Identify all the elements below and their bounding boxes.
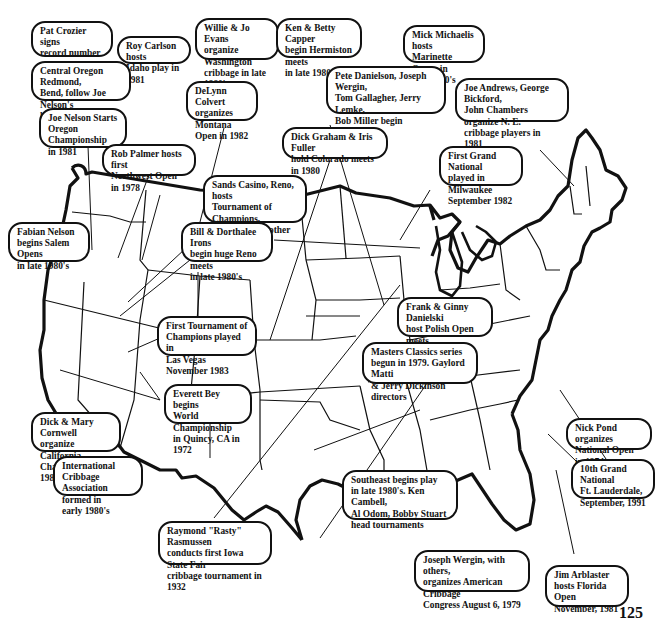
callout-delynn-colvert: DeLynn Colvert organizes Montana Open in…	[186, 81, 258, 121]
callout-ken-betty-capper: Ken & Betty Capper begin Hermiston meets…	[276, 18, 362, 58]
callout-joe-andrews: Joe Andrews, George Bickford, John Chamb…	[455, 78, 569, 122]
callout-nick-pond: Nick Pond organizes National Open in 197…	[566, 418, 652, 450]
callout-bill-dorthalee-irons: Bill & Dorthalee Irons begin huge Reno m…	[181, 222, 273, 262]
callout-roy-carlson: Roy Carlson hosts Idaho play in 1981	[117, 36, 191, 64]
callout-central-oregon: Central Oregon Redmond, Bend, follow Joe…	[31, 61, 131, 101]
callout-willie-jo-evans: Willie & Jo Evans organize Washington cr…	[195, 18, 279, 60]
callout-pete-danielson: Pete Danielson, Joseph Wergin, Tom Galla…	[326, 66, 446, 114]
callout-mick-michaelis: Mick Michaelis hosts Marinette Opens in …	[403, 25, 485, 63]
callout-dick-mary-cornwell: Dick & Mary Cornwell organize California…	[31, 412, 121, 452]
callout-rob-palmer: Rob Palmer hosts first Northwest Open in…	[102, 144, 196, 176]
callout-joseph-wergin: Joseph Wergin, with others, organizes Am…	[414, 550, 530, 592]
callout-dick-graham: Dick Graham & Iris Fuller hold Colorado …	[282, 127, 388, 159]
leader-lines	[60, 125, 612, 554]
callout-fabian-nelson: Fabian Nelson begins Salem Opens in late…	[8, 222, 90, 262]
callout-pat-crozier: Pat Crozier signs record number of Portl…	[31, 21, 113, 57]
callout-joe-nelson: Joe Nelson Starts Oregon Championship in…	[39, 108, 127, 148]
callout-frank-ginny-danielski: Frank & Ginny Danielski host Polish Open…	[397, 297, 493, 337]
callout-first-toc: First Tournament of Champions played in …	[157, 316, 257, 356]
callout-raymond-rasmussen: Raymond "Rasty" Rasmussen conducts first…	[158, 521, 272, 565]
callout-jim-arblaster: Jim Arblaster hosts Florida Open Novembe…	[545, 565, 629, 607]
callout-international-cribbage: International Cribbage Association forme…	[53, 456, 143, 496]
callout-tenth-grand-national: 10th Grand National Ft. Lauderdale, Sept…	[571, 459, 655, 499]
callout-sands-casino: Sands Casino, Reno, hosts Tournament of …	[203, 175, 307, 223]
page-number: 125	[619, 604, 643, 622]
state-borders	[44, 166, 590, 498]
callout-everett-bey: Everett Bey begins World Championship in…	[164, 384, 252, 424]
callout-first-grand-national: First Grand National played in Milwaukee…	[439, 146, 523, 186]
callout-masters-classics: Masters Classics series begun in 1979. G…	[362, 342, 478, 384]
callout-southeast: Southeast begins play in late 1980's. Ke…	[342, 470, 458, 520]
